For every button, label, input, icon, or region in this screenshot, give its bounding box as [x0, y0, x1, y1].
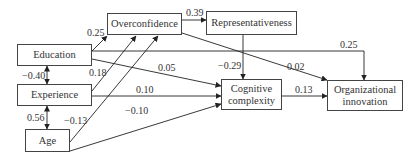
node-overconfidence: Overconfidence: [107, 13, 182, 35]
cov-education-experience-label: −0.40: [22, 71, 45, 81]
coef-cognitive-org: 0.13: [295, 85, 313, 95]
node-org-label-line1: Organizational: [334, 84, 396, 96]
node-education-label: Education: [33, 49, 76, 61]
coef-experience-cognitive: 0.10: [136, 85, 154, 95]
node-representativeness: Representativeness: [206, 11, 297, 35]
node-age-label: Age: [39, 135, 57, 147]
node-age: Age: [25, 129, 70, 152]
node-overconfidence-label: Overconfidence: [111, 18, 178, 30]
node-representativeness-label: Representativeness: [211, 17, 291, 29]
edge-education-overconfidence: [92, 36, 107, 51]
node-org-label-line2: innovation: [343, 96, 388, 108]
node-cognitive-label-line2: complexity: [228, 95, 275, 107]
node-organizational-innovation: Organizational innovation: [327, 80, 403, 111]
coef-education-overconfidence: 0.25: [87, 28, 105, 38]
coef-education-org: 0.25: [340, 40, 358, 50]
node-education: Education: [17, 44, 92, 66]
node-experience-label: Experience: [31, 89, 78, 101]
coef-overconfidence-org: 0.02: [287, 62, 305, 72]
coef-experience-overconfidence: 0.18: [89, 68, 107, 78]
coef-age-overconfidence: −0.13: [64, 116, 87, 126]
coef-representativeness-cognitive: −0.29: [218, 61, 241, 71]
node-cognitive-label-line1: Cognitive: [231, 83, 272, 95]
node-cognitive-complexity: Cognitive complexity: [221, 79, 282, 110]
cov-experience-age-label: 0.56: [27, 113, 45, 123]
edge-overconfidence-org: [182, 33, 327, 80]
coef-education-cognitive: 0.05: [158, 63, 176, 73]
node-experience: Experience: [17, 84, 92, 106]
coef-overconfidence-representativeness: 0.39: [186, 8, 204, 18]
edge-education-cognitive: [92, 59, 221, 86]
coef-age-cognitive: −0.10: [125, 106, 148, 116]
